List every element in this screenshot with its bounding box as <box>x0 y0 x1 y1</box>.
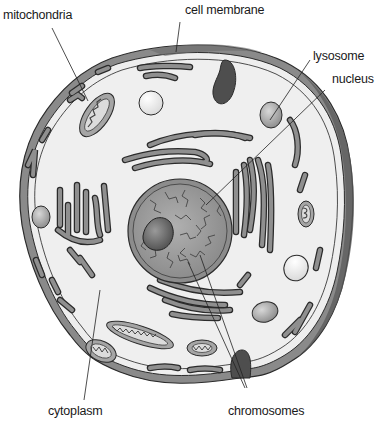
label-cytoplasm: cytoplasm <box>48 404 102 418</box>
label-cell-membrane: cell membrane <box>185 3 264 17</box>
cell-illustration <box>0 0 383 426</box>
label-nucleus: nucleus <box>332 72 374 86</box>
vesicle <box>139 91 163 115</box>
mitochondrion <box>298 201 314 227</box>
label-mitochondria: mitochondria <box>3 8 72 22</box>
animal-cell-diagram: mitochondria cell membrane lysosome nucl… <box>0 0 383 426</box>
lysosome-shape <box>260 102 282 128</box>
mitochondrion <box>187 340 217 356</box>
lysosome-shape <box>32 206 50 228</box>
label-lysosome: lysosome <box>313 49 364 63</box>
label-chromosomes: chromosomes <box>228 404 304 418</box>
